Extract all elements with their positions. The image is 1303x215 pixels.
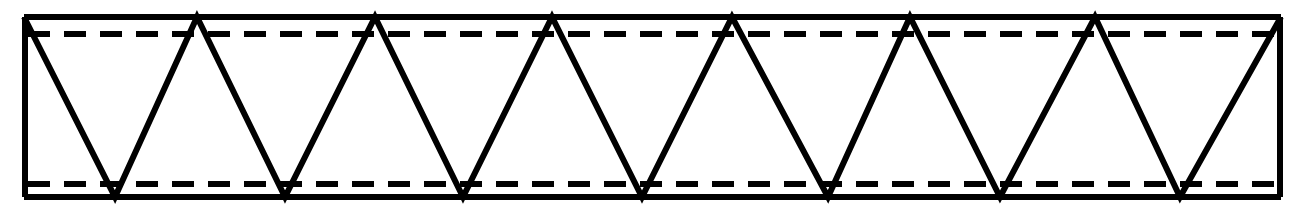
truss-diagram bbox=[0, 0, 1303, 215]
figure-root bbox=[0, 0, 1303, 215]
